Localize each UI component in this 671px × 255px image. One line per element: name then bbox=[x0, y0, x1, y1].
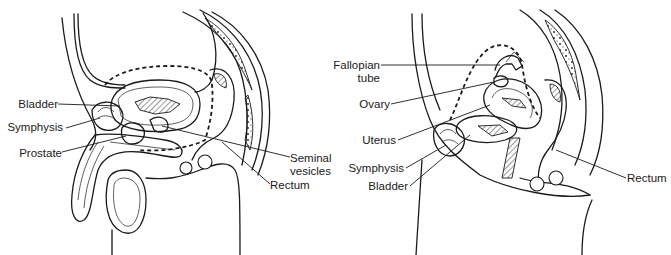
female-pelvis-drawing bbox=[381, 10, 626, 255]
label-rectum-female: Rectum bbox=[627, 172, 667, 185]
female-dashed-peritoneum bbox=[450, 45, 540, 120]
label-prostate-male: Prostate bbox=[18, 147, 62, 160]
label-ovary: Ovary bbox=[350, 98, 390, 111]
label-rectum-male: Rectum bbox=[270, 179, 310, 192]
male-penis bbox=[72, 134, 182, 221]
label-fallopian-tube-line1: Fallopian bbox=[328, 59, 380, 72]
label-symphysis-female: Symphysis bbox=[344, 162, 404, 175]
male-pelvis-drawing bbox=[58, 10, 290, 255]
label-seminal-vesicles-line1: Seminal bbox=[290, 152, 332, 165]
pelvic-anatomy-diagram bbox=[0, 0, 671, 255]
label-bladder-male: Bladder bbox=[14, 98, 58, 111]
label-fallopian-tube-line2: tube bbox=[328, 72, 380, 85]
label-uterus: Uterus bbox=[350, 134, 396, 147]
label-seminal-vesicles-line2: vesicles bbox=[290, 165, 331, 178]
label-bladder-female: Bladder bbox=[362, 180, 408, 193]
label-symphysis-male: Symphysis bbox=[5, 121, 63, 134]
